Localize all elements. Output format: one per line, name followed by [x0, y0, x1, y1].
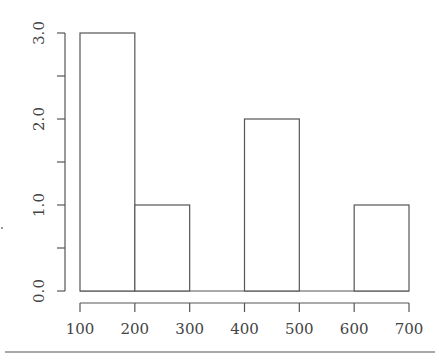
artifact-dot: [1, 227, 3, 229]
y-axis: 0.01.02.03.0: [30, 21, 65, 303]
histogram-bar: [245, 119, 300, 291]
histogram-bar: [354, 205, 409, 291]
x-tick-label: 400: [230, 320, 259, 338]
x-tick-label: 300: [175, 320, 204, 338]
histogram-bar: [135, 205, 190, 291]
x-tick-label: 200: [121, 320, 150, 338]
y-tick-label: 1.0: [30, 193, 48, 217]
y-tick-label: 2.0: [30, 107, 48, 131]
x-tick-label: 100: [66, 320, 95, 338]
x-axis: 100200300400500600700: [66, 303, 424, 338]
x-tick-label: 500: [285, 320, 314, 338]
bars: [80, 33, 409, 291]
y-tick-label: 3.0: [30, 21, 48, 45]
y-tick-label: 0.0: [30, 279, 48, 303]
x-tick-label: 700: [395, 320, 424, 338]
histogram-chart: 0.01.02.03.0 100200300400500600700: [0, 0, 439, 361]
x-tick-label: 600: [340, 320, 369, 338]
histogram-bar: [80, 33, 135, 291]
